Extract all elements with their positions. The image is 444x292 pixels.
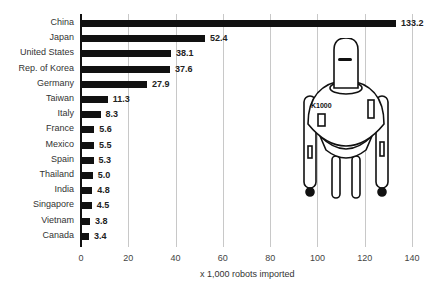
category-label: China [50, 17, 74, 27]
bar [81, 202, 92, 209]
bar [81, 233, 89, 240]
bar [81, 142, 94, 149]
bar-value-label: 37.6 [175, 64, 193, 74]
gridline [270, 14, 271, 247]
bar-value-label: 133.2 [401, 18, 424, 28]
category-label: Singapore [33, 199, 74, 209]
gridline [412, 14, 413, 247]
bar [81, 172, 93, 179]
gridline [128, 14, 129, 247]
bar-value-label: 5.3 [99, 155, 112, 165]
bar-value-label: 38.1 [176, 48, 194, 58]
category-label: Taiwan [46, 93, 74, 103]
bar [81, 20, 396, 27]
bar-value-label: 27.9 [152, 79, 170, 89]
bar-value-label: 4.8 [97, 185, 110, 195]
bar-value-label: 5.5 [99, 140, 112, 150]
bar [81, 218, 90, 225]
gridline [223, 14, 224, 247]
bar-value-label: 8.3 [106, 109, 119, 119]
bar [81, 96, 108, 103]
bar [81, 50, 171, 57]
robot-illustration-icon: K1000 [296, 38, 396, 208]
x-tick-label: 80 [265, 253, 275, 263]
bar [81, 187, 92, 194]
bar [81, 81, 147, 88]
bar [81, 35, 205, 42]
category-label: United States [20, 47, 74, 57]
x-tick-label: 60 [218, 253, 228, 263]
x-axis-label: x 1,000 robots imported [200, 269, 295, 279]
bar [81, 157, 94, 164]
bar-value-label: 4.5 [97, 200, 110, 210]
category-label: Japan [49, 32, 74, 42]
bar-value-label: 3.8 [95, 216, 108, 226]
category-label: Germany [37, 78, 74, 88]
bar-value-label: 52.4 [210, 33, 228, 43]
category-label: Italy [57, 108, 74, 118]
bar-value-label: 5.0 [98, 170, 111, 180]
category-label: Canada [42, 230, 74, 240]
category-label: Rep. of Korea [18, 63, 74, 73]
category-label: Vietnam [41, 215, 74, 225]
category-label: France [46, 123, 74, 133]
category-label: Spain [51, 154, 74, 164]
bar-value-label: 5.6 [99, 124, 112, 134]
x-tick-label: 140 [404, 253, 419, 263]
svg-text:K1000: K1000 [311, 102, 332, 109]
bar-value-label: 11.3 [113, 94, 130, 104]
x-tick-label: 120 [357, 253, 372, 263]
category-label: Mexico [45, 139, 74, 149]
category-label: India [54, 184, 74, 194]
bar [81, 111, 101, 118]
x-tick-label: 20 [123, 253, 133, 263]
x-tick-label: 100 [310, 253, 325, 263]
bar-value-label: 3.4 [94, 231, 107, 241]
x-tick-label: 40 [171, 253, 181, 263]
x-tick-label: 0 [78, 253, 83, 263]
bar [81, 126, 94, 133]
category-label: Thailand [39, 169, 74, 179]
bar [81, 66, 170, 73]
